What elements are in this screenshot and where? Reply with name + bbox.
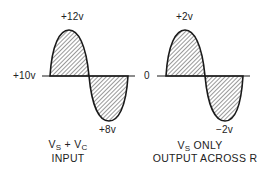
output-positive-lobe [166,30,205,76]
input-caption-line1: VS + VC [28,138,108,152]
input-caption-line2: INPUT [28,152,108,164]
output-caption-line1: VS ONLY [160,139,240,153]
output-caption-line2: OUTPUT ACROSS R [150,152,260,164]
output-negative-lobe [205,76,243,121]
input-negative-lobe [89,76,128,121]
output-peak-label: +2v [176,12,193,22]
input-peak-label: +12v [61,12,84,22]
input-waveform [42,30,135,121]
output-baseline-label: 0 [144,71,150,81]
input-baseline-label: +10v [13,71,36,81]
output-trough-label: −2v [216,125,233,135]
output-waveform [157,30,250,121]
input-trough-label: +8v [99,125,116,135]
input-positive-lobe [50,30,89,76]
